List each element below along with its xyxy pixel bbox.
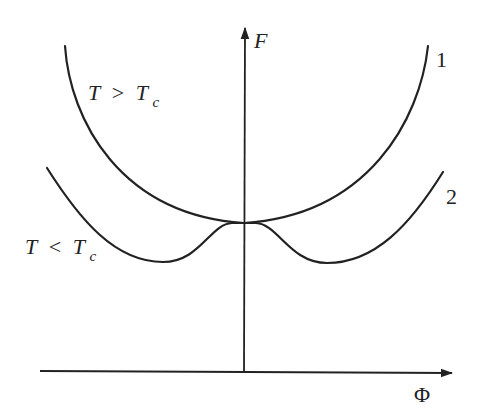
tc-subscript: c xyxy=(152,94,159,110)
phi-axis-label: Φ xyxy=(414,382,430,407)
curve-2-label: 2 xyxy=(446,184,457,209)
f-axis-label: F xyxy=(253,28,268,53)
condition-below-tc-label: T < T c xyxy=(25,234,96,264)
free-energy-diagram: F Φ 1 2 T > T c T < T c xyxy=(0,0,482,420)
phi-axis xyxy=(40,371,452,373)
greater-than-symbol: > xyxy=(112,80,124,105)
curve-1-above-tc xyxy=(65,46,428,223)
t-symbol: T xyxy=(88,80,102,105)
condition-above-tc-label: T > T c xyxy=(88,80,159,110)
less-than-symbol: < xyxy=(49,234,61,259)
svg-text:T < T c: T < T c xyxy=(25,234,96,264)
svg-text:T > T c: T > T c xyxy=(88,80,159,110)
tc-symbol: T xyxy=(136,80,150,105)
t-symbol: T xyxy=(25,234,39,259)
curve-1-label: 1 xyxy=(436,47,447,72)
tc-subscript: c xyxy=(89,248,96,264)
f-axis xyxy=(244,28,245,372)
tc-symbol: T xyxy=(73,234,87,259)
